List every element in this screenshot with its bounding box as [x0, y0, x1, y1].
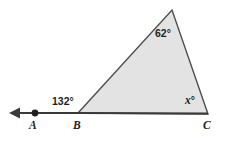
- angle-label-b: 132°: [52, 96, 74, 107]
- angle-label-apex: 62°: [155, 28, 171, 39]
- angle-label-c: x°: [185, 95, 195, 107]
- vertex-label-a: A: [29, 120, 37, 132]
- degree-symbol: °: [191, 94, 195, 106]
- vertex-label-b: B: [73, 120, 81, 132]
- baseline-bc: [78, 113, 208, 114]
- point-a-dot: [32, 110, 39, 117]
- vertex-label-c: C: [203, 120, 211, 132]
- geometry-figure: 132° 62° x° A B C: [0, 0, 227, 143]
- arrowhead-icon: [9, 108, 20, 119]
